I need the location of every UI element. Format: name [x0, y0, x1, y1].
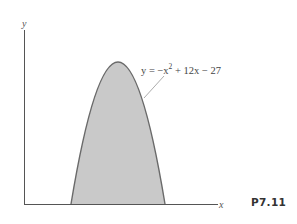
equation-suffix: + 12x − 27	[172, 65, 221, 76]
y-axis-label: y	[21, 18, 27, 29]
equation-label: y = −x2 + 12x − 27	[141, 62, 221, 76]
equation-leader-line	[144, 76, 164, 98]
x-axis-label: x	[218, 199, 224, 210]
equation-prefix: y = −x	[141, 65, 169, 76]
parabola-figure: y x y = −x2 + 12x − 27	[0, 0, 297, 224]
figure-number-label: P7.11	[251, 196, 286, 208]
